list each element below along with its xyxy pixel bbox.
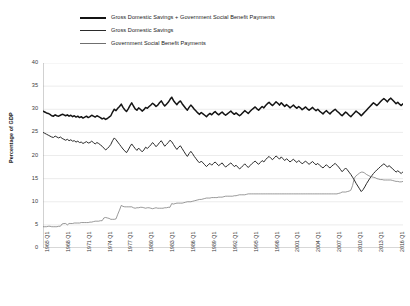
y-axis-tick-label: 15 — [16, 176, 38, 182]
plot-area — [43, 63, 403, 248]
legend-item-gross-domestic-savings: Gross Domestic Savings — [80, 24, 340, 37]
x-axis-tick-label: 1989 Q1 — [212, 232, 217, 252]
y-axis-tick-label: 35 — [16, 83, 38, 89]
legend-item-social-benefit-payments: Government Social Benefit Payments — [80, 37, 340, 50]
x-axis-tick-label: 2010 Q1 — [358, 232, 363, 252]
chart-container: Gross Domestic Savings + Government Soci… — [0, 0, 410, 306]
x-axis-tick-label: 1980 Q1 — [149, 232, 154, 252]
y-axis-tick-label: 40 — [16, 60, 38, 66]
y-axis-tick-label: 5 — [16, 222, 38, 228]
x-axis-tick-label: 2004 Q1 — [316, 232, 321, 252]
legend-item-combined: Gross Domestic Savings + Government Soci… — [80, 11, 340, 24]
legend-swatch-social-benefit-payments-icon — [80, 43, 106, 44]
y-axis-tick-label: 20 — [16, 153, 38, 159]
x-axis-tick-label: 1968 Q1 — [66, 232, 71, 252]
x-axis-tick-label: 1983 Q1 — [170, 232, 175, 252]
y-axis-title: Percentage of GDP — [9, 103, 14, 173]
x-axis-tick-label: 2013 Q1 — [379, 232, 384, 252]
legend-swatch-gross-domestic-savings-icon — [80, 30, 106, 31]
plot-svg — [43, 63, 403, 248]
x-axis-tick-label: 2016 Q1 — [400, 232, 405, 252]
y-axis-tick-label: 10 — [16, 199, 38, 205]
x-axis-tick-label: 1971 Q1 — [87, 232, 92, 252]
y-axis-tick-label: 0 — [16, 245, 38, 251]
series-line-1 — [43, 132, 403, 191]
chart-legend: Gross Domestic Savings + Government Soci… — [80, 11, 340, 50]
x-axis-tick-label: 1992 Q1 — [233, 232, 238, 252]
x-axis-tick-label: 1977 Q1 — [128, 232, 133, 252]
series-line-0 — [43, 97, 403, 119]
x-axis-tick-label: 1986 Q1 — [191, 232, 196, 252]
series-line-2 — [43, 172, 403, 227]
x-axis-tick-label: 2007 Q1 — [337, 232, 342, 252]
x-axis-tick-label: 1974 Q1 — [108, 232, 113, 252]
x-axis-tick-label: 2001 Q1 — [295, 232, 300, 252]
y-axis-tick-label: 30 — [16, 106, 38, 112]
legend-label-gross-domestic-savings: Gross Domestic Savings — [111, 28, 173, 34]
y-axis-tick-label: 25 — [16, 129, 38, 135]
legend-swatch-combined-icon — [80, 17, 106, 19]
legend-label-combined: Gross Domestic Savings + Government Soci… — [111, 15, 275, 21]
x-axis-tick-label: 1998 Q1 — [275, 232, 280, 252]
legend-label-social-benefit-payments: Government Social Benefit Payments — [111, 41, 206, 47]
x-axis-tick-labels: 1965 Q11968 Q11971 Q11974 Q11977 Q11980 … — [43, 252, 403, 306]
x-axis-tick-label: 1965 Q1 — [45, 232, 50, 252]
x-axis-tick-label: 1995 Q1 — [254, 232, 259, 252]
